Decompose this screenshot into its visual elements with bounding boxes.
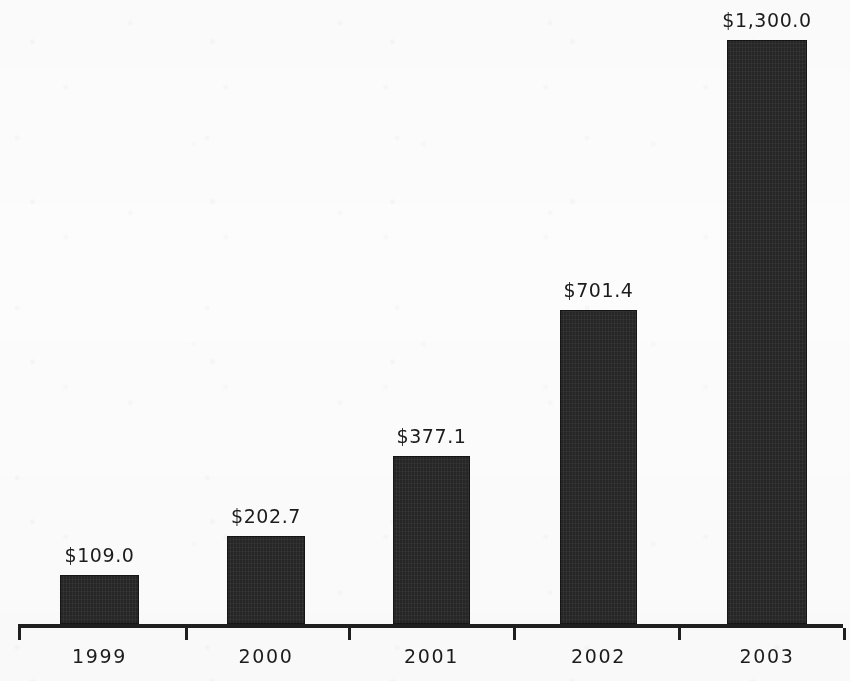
x-axis-tick-2 bbox=[348, 628, 351, 640]
x-axis-label-2003: 2003 bbox=[740, 645, 795, 667]
x-axis-label-2000: 2000 bbox=[239, 645, 294, 667]
bar-2001 bbox=[393, 456, 470, 624]
value-label-2003: $1,300.0 bbox=[722, 9, 811, 31]
x-axis-tick-5 bbox=[843, 628, 846, 640]
bar-2003 bbox=[727, 40, 807, 624]
x-axis-label-1999: 1999 bbox=[72, 645, 127, 667]
plot-area: $109.0 $202.7 $377.1 $701.4 $1,300.0 199… bbox=[0, 0, 850, 681]
x-axis-label-2001: 2001 bbox=[404, 645, 459, 667]
bar-2000 bbox=[227, 536, 305, 624]
value-label-2001: $377.1 bbox=[396, 425, 466, 447]
value-label-1999: $109.0 bbox=[64, 544, 134, 566]
x-axis-tick-3 bbox=[513, 628, 516, 640]
x-axis-tick-4 bbox=[678, 628, 681, 640]
value-label-2000: $202.7 bbox=[231, 505, 301, 527]
bar-chart-figure: $109.0 $202.7 $377.1 $701.4 $1,300.0 199… bbox=[0, 0, 850, 681]
x-axis-tick-1 bbox=[185, 628, 188, 640]
value-label-2002: $701.4 bbox=[563, 279, 633, 301]
x-axis-label-2002: 2002 bbox=[571, 645, 626, 667]
x-axis-line bbox=[18, 624, 843, 628]
bar-1999 bbox=[60, 575, 139, 624]
x-axis-tick-0 bbox=[18, 628, 21, 640]
bar-2002 bbox=[560, 310, 637, 624]
